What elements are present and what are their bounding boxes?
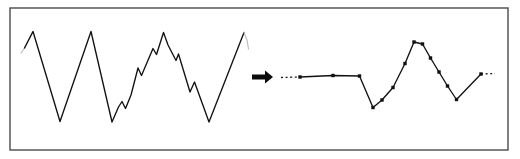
- sample-marker: [358, 74, 361, 77]
- sample-marker: [421, 42, 424, 45]
- sample-marker: [331, 74, 334, 77]
- sample-marker: [446, 84, 449, 87]
- sample-marker: [412, 40, 415, 43]
- sample-marker: [479, 72, 482, 75]
- sample-marker: [298, 75, 301, 78]
- sample-marker: [371, 106, 374, 109]
- figure-canvas: [0, 0, 520, 159]
- sample-marker: [380, 98, 383, 101]
- sample-marker: [437, 70, 440, 73]
- sample-marker: [429, 56, 432, 59]
- figure-container: [0, 0, 520, 159]
- sample-marker: [391, 86, 394, 89]
- sample-marker: [403, 62, 406, 65]
- sample-marker: [455, 98, 458, 101]
- arrow-shaft-icon: [252, 75, 266, 80]
